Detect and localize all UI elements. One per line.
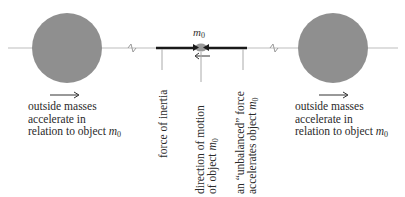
- direction-line2-text: of object: [206, 151, 218, 194]
- unbalanced-var: m: [246, 101, 258, 109]
- left-caption-sub: 0: [117, 130, 121, 139]
- direction-line1: direction of motion: [194, 105, 206, 194]
- unbalanced-line2-text: accelerates object: [246, 110, 258, 194]
- left-caption: outside masses accelerate in relation to…: [28, 100, 121, 142]
- force-of-inertia-text: force of inertia: [157, 90, 169, 158]
- direction-sub: 0: [211, 138, 220, 142]
- right-caption: outside masses accelerate in relation to…: [295, 100, 388, 142]
- left-caption-line2: accelerate in: [28, 113, 121, 126]
- unbalanced-force-label: an “unbalanced” force accelerates object…: [234, 91, 262, 194]
- right-caption-line2: accelerate in: [295, 113, 388, 126]
- force-of-inertia-label: force of inertia: [157, 90, 169, 158]
- object-label-sub: 0: [201, 31, 205, 40]
- right-caption-sub: 0: [384, 130, 388, 139]
- right-caption-line3: relation to object m0: [295, 125, 388, 142]
- right-outside-mass: [298, 13, 368, 83]
- right-caption-var: m: [376, 125, 384, 137]
- left-caption-line3-text: relation to object: [28, 125, 109, 137]
- direction-of-motion-label: direction of motion of object m0: [194, 105, 222, 194]
- object-label-var: m: [193, 26, 201, 38]
- direction-line2: of object m0: [206, 105, 222, 194]
- unbalanced-sub: 0: [251, 97, 260, 101]
- left-caption-line3: relation to object m0: [28, 125, 121, 142]
- left-caption-var: m: [109, 125, 117, 137]
- unbalanced-line2: accelerates object m0: [246, 91, 262, 194]
- left-outside-mass: [32, 13, 102, 83]
- right-caption-line3-text: relation to object: [295, 125, 376, 137]
- object-label: m0: [193, 26, 205, 40]
- unbalanced-line1: an “unbalanced” force: [234, 91, 246, 194]
- right-caption-line1: outside masses: [295, 100, 388, 113]
- direction-var: m: [206, 142, 218, 150]
- left-caption-line1: outside masses: [28, 100, 121, 113]
